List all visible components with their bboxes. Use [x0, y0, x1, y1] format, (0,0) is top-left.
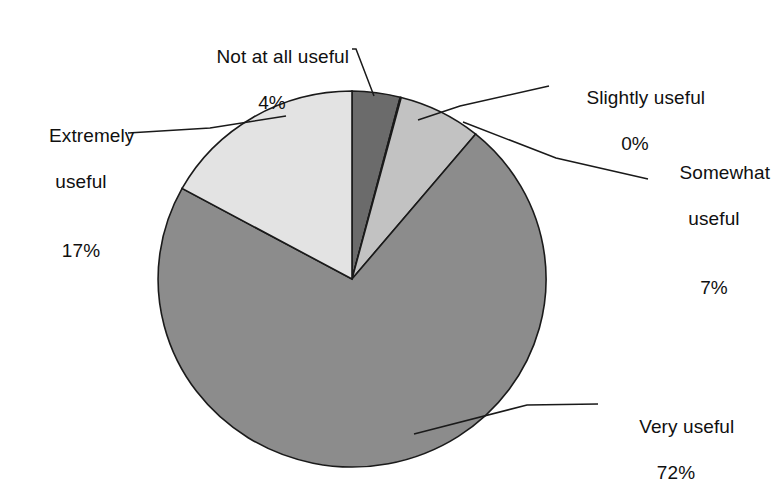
pie-label-extremely-useful: Extremely useful 17%	[16, 101, 146, 308]
pie-chart: Not at all useful 4% Slightly useful 0% …	[0, 0, 784, 490]
pie-label-somewhat-useful: Somewhat useful 7%	[654, 138, 774, 345]
pie-label-extremely-useful-text2: useful	[16, 170, 146, 193]
pie-label-not-at-all-useful: Not at all useful 4%	[192, 22, 352, 160]
pie-label-not-at-all-useful-text: Not at all useful	[216, 46, 349, 67]
pie-label-very-useful-value: 72%	[604, 461, 748, 484]
pie-label-very-useful-text: Very useful	[639, 416, 734, 437]
pie-label-extremely-useful-value: 17%	[16, 239, 146, 262]
pie-label-slightly-useful-text: Slightly useful	[586, 87, 705, 108]
pie-label-extremely-useful-text: Extremely	[49, 125, 134, 146]
pie-label-somewhat-useful-text: Somewhat	[679, 162, 770, 183]
pie-label-very-useful: Very useful 72%	[604, 392, 748, 490]
pie-label-not-at-all-useful-value: 4%	[192, 91, 352, 114]
leader-line-not-at-all-useful	[352, 49, 374, 96]
pie-label-somewhat-useful-value: 7%	[654, 276, 774, 299]
pie-label-somewhat-useful-text2: useful	[654, 207, 774, 230]
